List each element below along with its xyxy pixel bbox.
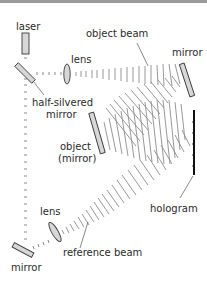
holography-diagram: laser half-silvered mirror xyxy=(0,0,207,282)
label-object-2: (mirror) xyxy=(58,153,96,164)
label-laser: laser xyxy=(16,21,41,32)
half-silvered-mirror-icon xyxy=(15,63,36,84)
label-lens-bottom: lens xyxy=(40,206,60,217)
label-half-silvered-2: mirror xyxy=(46,109,77,120)
leader-half-silvered xyxy=(33,81,44,95)
mirror-bottom-icon xyxy=(12,243,34,258)
lens-top-icon xyxy=(64,64,70,84)
leader-object-beam xyxy=(137,43,148,66)
mirror-top-icon xyxy=(179,63,194,97)
label-object-beam: object beam xyxy=(86,28,148,39)
label-mirror-top: mirror xyxy=(172,47,203,58)
label-hologram: hologram xyxy=(150,203,198,214)
label-object-1: object xyxy=(60,141,91,152)
laser-icon xyxy=(22,33,29,54)
label-reference-beam: reference beam xyxy=(63,247,142,258)
object-mirror-icon xyxy=(89,112,105,154)
beam-to-lens-top xyxy=(37,72,61,75)
beam-to-lens-bottom xyxy=(33,240,49,249)
leader-reference-beam xyxy=(80,222,88,248)
vertical-beam xyxy=(24,58,27,239)
leader-hologram xyxy=(180,176,193,198)
object-beam-wavefronts xyxy=(76,64,180,86)
label-mirror-bottom: mirror xyxy=(11,262,42,273)
label-half-silvered-1: half-silvered xyxy=(32,97,93,108)
label-lens-top: lens xyxy=(71,54,91,65)
object-to-hologram-wavefronts xyxy=(104,100,185,164)
lens-bottom-icon xyxy=(47,221,64,243)
